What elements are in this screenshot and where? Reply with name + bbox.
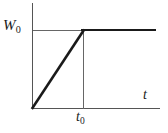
x-axis-name-label: t xyxy=(143,88,147,102)
curve-ramp-segment xyxy=(33,31,84,109)
figure-container: W0 t0 t xyxy=(0,0,168,133)
x-axis-value-subscript: 0 xyxy=(80,116,85,126)
y-axis-value-label: W0 xyxy=(3,18,21,33)
y-axis-value-subscript: 0 xyxy=(16,24,21,35)
x-axis-value-label: t0 xyxy=(76,110,85,124)
y-axis-value-symbol: W xyxy=(3,17,16,33)
